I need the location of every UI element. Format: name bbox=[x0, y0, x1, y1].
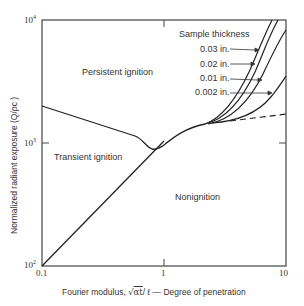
y-tick-10000: 104 bbox=[24, 14, 36, 25]
region-label-transient: Transient ignition bbox=[54, 152, 122, 162]
y-tick-1000: 103 bbox=[24, 137, 36, 148]
legend-0.02in: 0.02 in. bbox=[200, 59, 230, 69]
x-tick-1: 1 bbox=[161, 268, 166, 278]
boundary-persistent-transient bbox=[42, 106, 205, 149]
legend-0.002in: 0.002 in. bbox=[195, 87, 230, 97]
legend-arrows bbox=[230, 48, 272, 95]
region-label-nonignition: Nonignition bbox=[175, 192, 220, 202]
legend-0.01in: 0.01 in. bbox=[200, 73, 230, 83]
x-tick-0.1: 0.1 bbox=[36, 268, 47, 278]
y-axis-label: Normalized radiant exposure (Q/ρc ) bbox=[9, 97, 19, 234]
legend-0.03in: 0.03 in. bbox=[200, 44, 230, 54]
region-label-persistent: Persistent ignition bbox=[82, 67, 153, 77]
y-tick-100: 102 bbox=[24, 259, 36, 270]
x-axis-label: Fourier modulus, √αt/ ℓ — Degree of pene… bbox=[62, 287, 246, 297]
chart-plot bbox=[0, 0, 304, 306]
x-tick-10: 10 bbox=[279, 268, 288, 278]
nonignition-limit-dashed bbox=[230, 114, 286, 121]
legend-title: Sample thickness bbox=[179, 29, 250, 39]
